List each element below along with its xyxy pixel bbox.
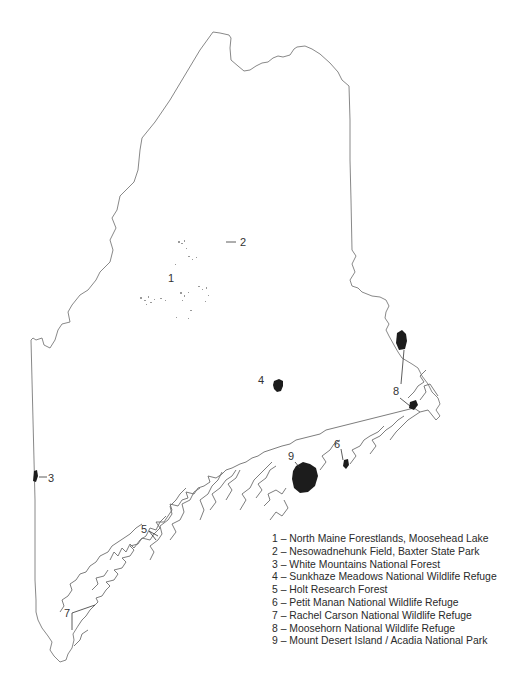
- marker-label-6: 6: [334, 438, 340, 450]
- legend-item-1: 1 – North Maine Forestlands, Moosehead L…: [272, 533, 497, 546]
- site-4-blob: [273, 379, 283, 392]
- legend-item-2: 2 – Nesowadnehunk Field, Baxter State Pa…: [272, 546, 497, 559]
- legend-item-6: 6 – Petit Manan National Wildlife Refuge: [272, 597, 497, 610]
- legend-item-9: 9 – Mount Desert Island / Acadia Nationa…: [272, 635, 497, 648]
- marker-label-8: 8: [393, 385, 399, 397]
- legend-item-8: 8 – Moosehorn National Wildlife Refuge: [272, 623, 497, 636]
- marker-label-3: 3: [48, 472, 54, 484]
- site-3-marker: [33, 470, 47, 482]
- marker-label-7: 7: [64, 607, 70, 619]
- legend-item-4: 4 – Sunkhaze Meadows National Wildlife R…: [272, 571, 497, 584]
- legend-item-3: 3 – White Mountains National Forest: [272, 559, 497, 572]
- marker-label-9: 9: [288, 450, 294, 462]
- marker-label-4: 4: [258, 374, 264, 386]
- site-1-specks: [140, 240, 209, 319]
- legend-item-5: 5 – Holt Research Forest: [272, 584, 497, 597]
- site-8-marker: [396, 330, 418, 410]
- marker-label-2: 2: [240, 236, 246, 248]
- state-boundary: [213, 32, 440, 420]
- marker-label-1: 1: [168, 272, 174, 284]
- map-legend: 1 – North Maine Forestlands, Moosehead L…: [272, 533, 497, 648]
- site-9-marker: [292, 462, 318, 493]
- site-6-marker: [341, 449, 349, 469]
- marker-label-5: 5: [141, 523, 147, 535]
- legend-item-7: 7 – Rachel Carson National Wildlife Refu…: [272, 610, 497, 623]
